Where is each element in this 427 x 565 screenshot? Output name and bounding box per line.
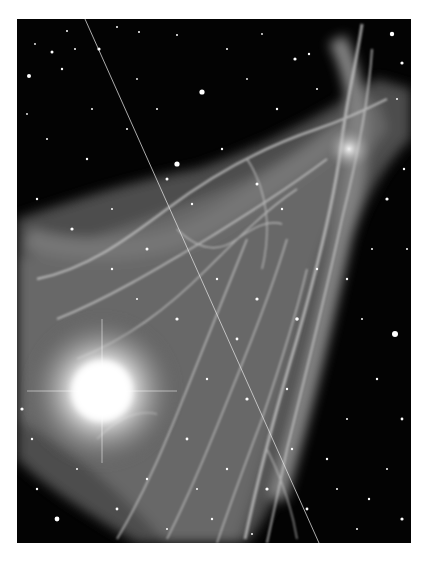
bright-knot [327, 127, 371, 171]
nebula-photograph [17, 19, 411, 543]
nebula-image [17, 19, 411, 543]
